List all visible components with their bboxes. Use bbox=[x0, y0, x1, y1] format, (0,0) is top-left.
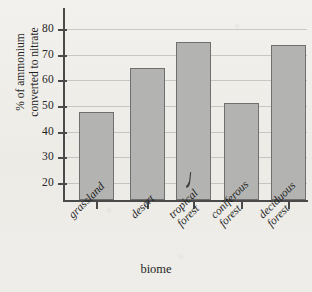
y-tick-60 bbox=[58, 80, 67, 82]
bar-desert bbox=[130, 68, 165, 200]
y-tick-80 bbox=[58, 29, 67, 31]
y-axis-line bbox=[63, 8, 65, 202]
y-tick-label-20: 20 bbox=[20, 177, 54, 189]
y-tick-50 bbox=[58, 106, 67, 108]
gridline-80 bbox=[65, 29, 307, 30]
y-axis-title: % of ammonium converted to nitrate bbox=[13, 0, 41, 157]
x-tick-0 bbox=[96, 202, 98, 209]
y-tick-30 bbox=[58, 157, 67, 159]
y-axis-title-line1: % of ammonium bbox=[13, 0, 27, 157]
y-tick-40 bbox=[58, 132, 67, 134]
x-axis-title: biome bbox=[0, 262, 312, 277]
bar-deciduous-forest bbox=[271, 45, 306, 200]
bar-tropical-forest bbox=[176, 42, 211, 200]
y-tick-20 bbox=[58, 183, 67, 185]
y-axis-title-line2: converted to nitrate bbox=[27, 0, 41, 157]
bar-chart: 80 70 60 50 40 30 20 grassland desert tr… bbox=[0, 0, 312, 292]
y-tick-70 bbox=[58, 55, 67, 57]
